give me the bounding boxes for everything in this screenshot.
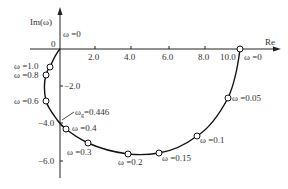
label-w04: ω =0.4 <box>72 123 97 133</box>
x-tick-label-8: 8.0 <box>198 52 210 62</box>
marker-w04 <box>63 126 69 132</box>
marker-w005 <box>225 95 231 101</box>
label-w0: ω =0 <box>244 52 262 62</box>
x-tick-label-6: 6.0 <box>162 52 174 62</box>
y-tick-label-neg4: −4.0 <box>38 118 55 128</box>
x-tick-label-10: 10.0 <box>220 52 236 62</box>
label-w10: ω =1.0 <box>14 61 39 71</box>
marker-w0 <box>237 46 243 52</box>
label-w02: ω =0.2 <box>118 157 143 167</box>
label-w08: ω =0.8 <box>14 70 39 80</box>
label-w015: ω =0.15 <box>162 153 191 163</box>
label-w01: ω =0.1 <box>200 135 225 145</box>
x-tick-label-4: 4.0 <box>124 52 136 62</box>
imag-axis-arrow-icon <box>58 7 63 15</box>
real-axis-arrow-icon <box>273 47 281 52</box>
marker-w03 <box>85 140 91 146</box>
y-tick-label-neg2: −2.0 <box>64 81 81 91</box>
label-w03: ω =0.3 <box>67 147 92 157</box>
origin-label: 0 <box>51 39 56 49</box>
marker-w10 <box>47 64 53 70</box>
wg-leader-line <box>62 112 74 120</box>
y-axis-label: Im(ω) <box>30 17 52 27</box>
y-tick-label-neg6: −6.0 <box>38 156 55 166</box>
nyquist-plot: 2.0 4.0 6.0 8.0 10.0 −2.0 −4.0 −6.0 0 Im… <box>0 0 288 189</box>
marker-w06 <box>43 98 49 104</box>
label-wg: ωg=0.446 <box>75 107 110 118</box>
x-tick-label-2: 2.0 <box>88 52 100 62</box>
x-axis-label: Re <box>265 37 275 47</box>
marker-w08 <box>43 72 49 78</box>
origin-omega-label: ω =0 <box>63 29 81 39</box>
label-w005: ω =0.05 <box>232 93 261 103</box>
label-w06: ω =0.6 <box>14 96 39 106</box>
